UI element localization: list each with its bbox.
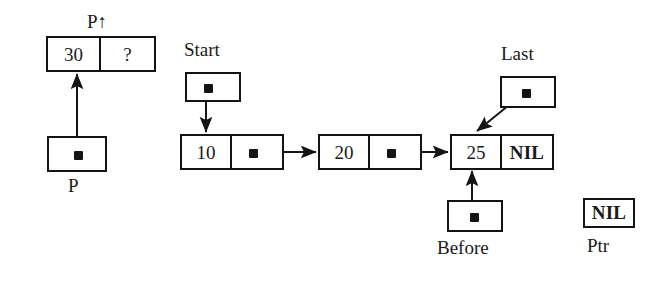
list-node-box: 10 [180,134,284,170]
pointer-label-p: P [68,176,79,195]
linked-list-diagram: P↑ 30 ? P Start 10 20 25 NIL Last Bef [0,0,658,282]
list-node-link-cell [370,136,420,168]
list-node-nil-cell: NIL [502,136,552,168]
pointer-box-p [47,136,107,172]
list-node-data-cell: 10 [182,136,232,168]
filled-square-pointer-icon [522,89,531,98]
filled-square-pointer-icon [249,149,258,158]
pointer-box-ptr: NIL [583,198,635,228]
new-node-box: 30 ? [46,36,156,72]
pointer-box-before [447,200,503,232]
filled-square-pointer-icon [204,84,213,93]
pointer-box-last [500,76,556,108]
new-node-label: P↑ [87,12,107,31]
list-node-box: 25 NIL [450,134,554,170]
pointer-label-ptr: Ptr [587,236,609,255]
pointer-label-last: Last [501,44,534,63]
list-node-data-cell: 20 [320,136,370,168]
filled-square-pointer-icon [387,149,396,158]
pointer-label-start: Start [184,40,220,59]
pointer-label-before: Before [437,238,489,257]
filled-square-pointer-icon [470,213,479,222]
filled-square-pointer-icon [74,151,83,160]
list-node-data-cell: 25 [452,136,502,168]
pointer-box-start [185,72,241,102]
list-node-link-cell [232,136,282,168]
new-node-data-cell: 30 [48,38,101,70]
new-node-link-cell: ? [101,38,154,70]
list-node-box: 20 [318,134,422,170]
